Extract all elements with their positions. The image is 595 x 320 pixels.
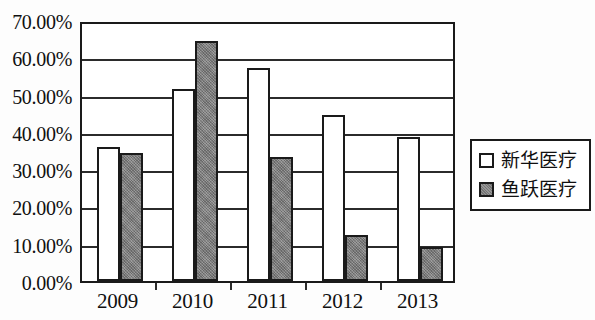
- bar-chart: 0.00%10.00%20.00%30.00%40.00%50.00%60.00…: [0, 0, 595, 320]
- legend-item-label: 鱼跃医疗: [501, 179, 577, 200]
- bar-2010-series-1: [172, 89, 195, 281]
- chart-legend: 新华医疗鱼跃医疗: [470, 139, 591, 211]
- y-tick-label: 30.00%: [12, 161, 72, 181]
- x-tick-label: 2010: [153, 288, 233, 314]
- legend-item[interactable]: 鱼跃医疗: [479, 175, 585, 204]
- bar-group: [167, 24, 223, 281]
- y-tick-label: 0.00%: [22, 273, 72, 293]
- y-tick-label: 50.00%: [12, 87, 72, 107]
- y-tick-label: 20.00%: [12, 198, 72, 218]
- bar-group: [392, 24, 448, 281]
- x-tick-label: 2009: [78, 288, 158, 314]
- bar-2010-series-2: [195, 41, 218, 281]
- legend-item[interactable]: 新华医疗: [479, 146, 585, 175]
- y-tick-label: 40.00%: [12, 124, 72, 144]
- bar-2011-series-2: [270, 157, 293, 281]
- bar-2013-series-1: [397, 137, 420, 281]
- bar-group: [317, 24, 373, 281]
- bar-2013-series-2: [420, 247, 443, 281]
- y-axis: 0.00%10.00%20.00%30.00%40.00%50.00%60.00…: [0, 0, 76, 300]
- y-tick-label: 70.00%: [12, 12, 72, 32]
- plot-area: [80, 22, 455, 283]
- bar-2009-series-2: [120, 153, 143, 281]
- bars-layer: [82, 24, 453, 281]
- bar-group: [92, 24, 148, 281]
- y-tick-label: 60.00%: [12, 49, 72, 69]
- bar-2012-series-1: [322, 115, 345, 281]
- bar-2012-series-2: [345, 235, 368, 281]
- bar-group: [242, 24, 298, 281]
- x-tick-label: 2013: [378, 288, 458, 314]
- bar-2009-series-1: [97, 147, 120, 281]
- legend-swatch-icon: [479, 153, 494, 168]
- x-tick-label: 2011: [228, 288, 308, 314]
- x-axis: 20092010201120122013: [80, 288, 455, 320]
- legend-item-label: 新华医疗: [501, 150, 577, 171]
- bar-2011-series-1: [247, 68, 270, 281]
- legend-swatch-icon: [479, 182, 494, 197]
- y-tick-label: 10.00%: [12, 236, 72, 256]
- x-tick-label: 2012: [303, 288, 383, 314]
